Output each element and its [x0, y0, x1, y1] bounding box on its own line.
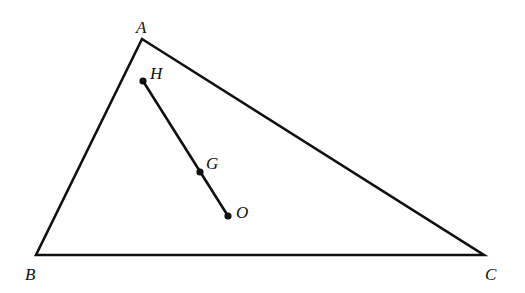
label-o: O	[236, 203, 248, 222]
label-h: H	[149, 64, 164, 83]
triangle-abc	[36, 39, 484, 255]
label-c: C	[485, 265, 497, 284]
euler-line-segment	[143, 81, 228, 216]
label-g: G	[206, 154, 218, 173]
label-a: A	[135, 18, 147, 37]
point-g	[196, 168, 203, 175]
point-h	[139, 77, 146, 84]
point-o	[224, 212, 231, 219]
triangle-diagram: A H G O B C	[0, 0, 525, 293]
label-b: B	[25, 265, 36, 284]
